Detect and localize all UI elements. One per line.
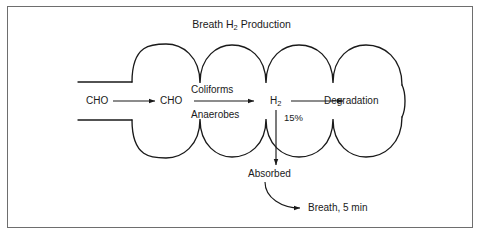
figure-container: Breath H2 Production CHO CHO Coliforms A… [0, 0, 483, 239]
label-coliforms: Coliforms [191, 85, 233, 95]
label-anaerobes: Anaerobes [191, 110, 239, 120]
label-percent-absorbed: 15% [284, 113, 303, 123]
label-hydrogen: H2 [270, 96, 281, 108]
label-degradation: Degradation [324, 96, 378, 106]
label-breath: Breath, 5 min [308, 203, 367, 213]
label-absorbed: Absorbed [248, 169, 291, 179]
arrow-absorbed-to-breath [265, 182, 300, 208]
intestine-diagram [0, 0, 483, 239]
label-cho-lumen: CHO [160, 96, 182, 106]
figure-title: Breath H2 Production [0, 19, 483, 32]
label-cho-input: CHO [86, 96, 108, 106]
